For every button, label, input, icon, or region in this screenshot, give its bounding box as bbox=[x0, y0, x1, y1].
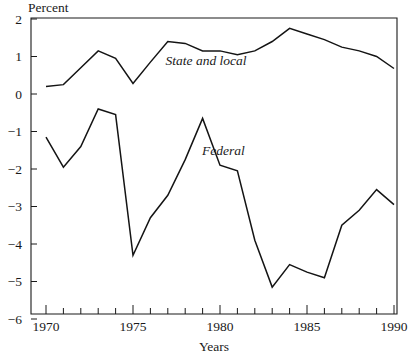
x-axis-tick-label: 1990 bbox=[381, 319, 408, 334]
y-axis-tick-label: 2 bbox=[15, 12, 22, 27]
y-axis-tick-label: 0 bbox=[15, 87, 22, 102]
x-axis-tick-label: 1975 bbox=[120, 319, 147, 334]
series-label-federal: Federal bbox=[201, 143, 245, 158]
y-axis-tick-group bbox=[31, 19, 37, 319]
y-axis-tick-label: −4 bbox=[8, 237, 23, 252]
y-axis-tick-label: −6 bbox=[8, 312, 23, 327]
y-axis-title: Percent bbox=[28, 0, 69, 15]
series-annotation-group: State and localFederal bbox=[166, 53, 247, 158]
line-chart-svg: 210−1−2−3−4−5−6 19701975198019851990 Sta… bbox=[0, 0, 416, 357]
x-axis-tick-label: 1980 bbox=[207, 319, 234, 334]
x-axis-tick-label: 1985 bbox=[294, 319, 321, 334]
y-axis-label-group: 210−1−2−3−4−5−6 bbox=[8, 12, 23, 327]
chart-figure: 210−1−2−3−4−5−6 19701975198019851990 Sta… bbox=[0, 0, 416, 357]
x-axis-tick-group bbox=[46, 305, 394, 314]
x-axis-label-group: 19701975198019851990 bbox=[33, 319, 408, 334]
y-axis-tick-label: −1 bbox=[8, 124, 22, 139]
y-axis-tick-label: −5 bbox=[8, 274, 23, 289]
series-line-federal bbox=[46, 109, 394, 287]
series-label-state-and-local: State and local bbox=[166, 53, 247, 68]
y-axis-tick-label: −2 bbox=[8, 162, 22, 177]
x-axis-tick-label: 1970 bbox=[33, 319, 60, 334]
y-axis-tick-label: −3 bbox=[8, 199, 23, 214]
y-axis-tick-label: 1 bbox=[15, 49, 22, 64]
x-axis-title: Years bbox=[199, 339, 229, 354]
